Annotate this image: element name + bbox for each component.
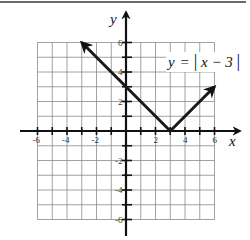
- absolute-value-graph: -6-4-2246642-2-4-6 x y y = | x − 3 |: [0, 0, 250, 240]
- x-tick-label: -2: [92, 135, 100, 145]
- equation-label: y = | x − 3 |: [166, 51, 240, 72]
- equation-body: x − 3: [200, 54, 233, 70]
- equation-bar-close: |: [237, 51, 241, 71]
- y-axis-label: y: [108, 11, 117, 27]
- svg-text:y = | x − 3: y = | x − 3 |: [166, 51, 240, 71]
- x-tick-label: 2: [154, 135, 159, 145]
- y-tick-label: 2: [118, 97, 123, 107]
- x-axis-label: x: [228, 133, 236, 149]
- x-tick-label: -4: [62, 135, 70, 145]
- y-tick-label: 6: [118, 38, 123, 48]
- y-tick-label: -2: [115, 156, 123, 166]
- y-tick-label: 4: [118, 67, 123, 77]
- x-tick-label: -6: [33, 135, 41, 145]
- y-tick-label: -4: [115, 185, 123, 195]
- equation-lhs: y: [166, 54, 175, 70]
- y-tick-label: -6: [115, 215, 123, 225]
- equation-equals: =: [180, 54, 188, 70]
- x-tick-label: 6: [213, 135, 218, 145]
- x-tick-label: 4: [183, 135, 188, 145]
- equation-bar-open: |: [194, 51, 198, 71]
